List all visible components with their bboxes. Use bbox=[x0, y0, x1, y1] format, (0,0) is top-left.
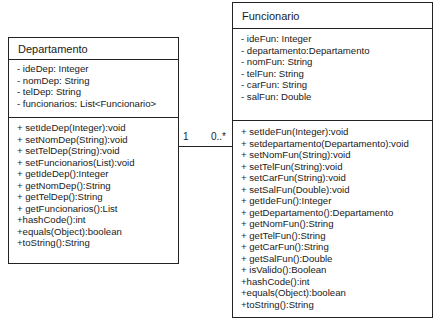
attribute: - telFun: String bbox=[241, 68, 432, 80]
attribute: - telDep: String bbox=[17, 86, 178, 98]
multiplicity-departamento: 1 bbox=[183, 131, 189, 142]
method: + getNomDep():String bbox=[17, 180, 178, 192]
class-funcionario: Funcionario - ideFun: Integer - departam… bbox=[232, 2, 433, 318]
method: + getIdeFun():Integer bbox=[241, 195, 432, 207]
attribute: - nomDep: String bbox=[17, 75, 178, 87]
attributes-section: - ideFun: Integer - departamento:Departa… bbox=[233, 29, 432, 121]
method: + setFuncionarios(List):void bbox=[17, 157, 178, 169]
attribute: - ideDep: Integer bbox=[17, 63, 178, 75]
method: + setTelFun(String):void bbox=[241, 161, 432, 173]
class-name: Departamento bbox=[9, 38, 178, 60]
method: + setTelDep(String):void bbox=[17, 145, 178, 157]
method: + setNomDep(String):void bbox=[17, 134, 178, 146]
method: +toString():String bbox=[241, 299, 432, 311]
method: + setSalFun(Double):void bbox=[241, 184, 432, 196]
method: + getTelDep():String bbox=[17, 191, 178, 203]
method: +equals(Object):boolean bbox=[241, 287, 432, 299]
multiplicity-funcionario: 0..* bbox=[211, 131, 226, 142]
method: + getIdeDep():Integer bbox=[17, 168, 178, 180]
attributes-section: - ideDep: Integer - nomDep: String - tel… bbox=[9, 60, 178, 118]
method: + getCarFun():String bbox=[241, 241, 432, 253]
methods-section: + setIdeDep(Integer):void + setNomDep(St… bbox=[9, 118, 178, 249]
method: + setdepartamento(Departamento):void bbox=[241, 138, 432, 150]
class-departamento: Departamento - ideDep: Integer - nomDep:… bbox=[8, 37, 179, 264]
method: + setIdeDep(Integer):void bbox=[17, 122, 178, 134]
attribute: - carFun: String bbox=[241, 79, 432, 91]
attribute: - salFun: Double bbox=[241, 91, 432, 103]
method: + setCarFun(String):void bbox=[241, 172, 432, 184]
attribute: - ideFun: Integer bbox=[241, 33, 432, 45]
method: + getNomFun():String bbox=[241, 218, 432, 230]
class-name: Funcionario bbox=[233, 3, 432, 29]
method: +hashCode():int bbox=[17, 214, 178, 226]
attribute: - funcionarios: List<Funcionario> bbox=[17, 98, 178, 110]
method: +equals(Object):boolean bbox=[17, 226, 178, 238]
method: + getDepartamento():Departamento bbox=[241, 207, 432, 219]
method: + setNomFun(String):void bbox=[241, 149, 432, 161]
association-line bbox=[179, 146, 232, 147]
method: + getSalFun():Double bbox=[241, 253, 432, 265]
method: + getFuncionarios():List bbox=[17, 203, 178, 215]
method: + setIdeFun(Integer):void bbox=[241, 126, 432, 138]
method: + getTelFun():String bbox=[241, 230, 432, 242]
method: +hashCode():int bbox=[241, 276, 432, 288]
method: +toString():String bbox=[17, 237, 178, 249]
attribute: - departamento:Departamento bbox=[241, 45, 432, 57]
attribute: - nomFun: String bbox=[241, 56, 432, 68]
methods-section: + setIdeFun(Integer):void + setdepartame… bbox=[233, 121, 432, 310]
method: + isValido():Boolean bbox=[241, 264, 432, 276]
